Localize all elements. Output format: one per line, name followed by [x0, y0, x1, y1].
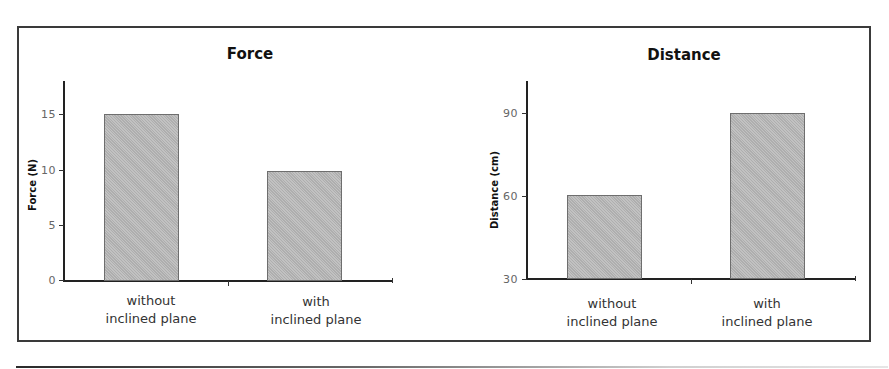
- y-tick: [522, 113, 527, 114]
- category-label: without inclined plane: [532, 295, 692, 331]
- x-tick: [691, 279, 692, 284]
- y-tick-label: 60: [488, 190, 518, 203]
- chart-title: Distance: [647, 46, 721, 64]
- bar-with-inclined-plane: [730, 113, 805, 279]
- y-axis: [526, 81, 528, 280]
- y-tick-label: 90: [488, 107, 518, 120]
- category-label-line: inclined plane: [687, 313, 847, 331]
- category-label: with inclined plane: [687, 295, 847, 331]
- y-tick: [522, 196, 527, 197]
- category-label-line: inclined plane: [532, 313, 692, 331]
- distance-chart: Distance Distance (cm) 90 60 30 without …: [0, 0, 889, 369]
- y-tick: [522, 279, 527, 280]
- y-tick-label: 30: [488, 273, 518, 286]
- category-label-line: without: [532, 295, 692, 313]
- bar-without-inclined-plane: [567, 195, 642, 279]
- x-tick: [855, 276, 856, 281]
- category-label-line: with: [687, 295, 847, 313]
